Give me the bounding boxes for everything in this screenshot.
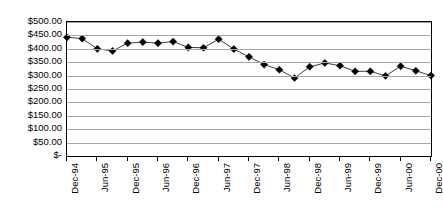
- y-axis-tick-label: $150.00: [0, 110, 62, 120]
- x-axis-tick: [309, 156, 310, 161]
- gridline: [67, 62, 431, 63]
- data-point-marker: [306, 63, 313, 70]
- gridline: [67, 22, 431, 23]
- y-axis-tick-label: $400.00: [0, 43, 62, 53]
- data-point-marker: [215, 36, 222, 43]
- x-axis-tick: [248, 156, 249, 161]
- x-axis-tick-label: Jun-97: [222, 163, 232, 192]
- x-axis-tick-label: Jun-99: [343, 163, 353, 192]
- x-axis-tick-label: Dec-99: [373, 163, 383, 194]
- gridline: [67, 76, 431, 77]
- x-axis-tick: [430, 156, 431, 161]
- gridline: [67, 102, 431, 103]
- x-axis-tick: [278, 156, 279, 161]
- gridline: [67, 89, 431, 90]
- x-axis-tick: [339, 156, 340, 161]
- data-point-marker: [352, 68, 359, 75]
- data-point-marker: [276, 66, 283, 73]
- y-axis-tick-label: $50.00: [0, 137, 62, 147]
- data-point-marker: [367, 68, 374, 75]
- data-point-marker: [124, 40, 131, 47]
- x-axis-tick: [218, 156, 219, 161]
- gridline: [67, 49, 431, 50]
- data-point-marker: [185, 44, 192, 51]
- y-axis-tick-label: $-: [0, 150, 62, 160]
- y-axis-tick-label: $200.00: [0, 96, 62, 106]
- x-axis-tick: [96, 156, 97, 161]
- data-point-marker: [200, 44, 207, 51]
- x-axis-tick-label: Dec-00: [434, 163, 443, 194]
- y-axis-tick-label: $300.00: [0, 70, 62, 80]
- x-axis-tick-label: Jun-96: [161, 163, 171, 192]
- x-axis-tick-label: Dec-94: [70, 163, 80, 194]
- y-axis: $500.00$450.00$400.00$350.00$300.00$250.…: [0, 21, 62, 155]
- y-axis-tick-label: $450.00: [0, 29, 62, 39]
- data-point-marker: [397, 63, 404, 70]
- x-axis-tick-label: Jun-98: [282, 163, 292, 192]
- y-axis-tick-label: $500.00: [0, 16, 62, 26]
- x-axis-tick: [369, 156, 370, 161]
- gridline: [67, 143, 431, 144]
- data-point-marker: [139, 39, 146, 46]
- gridline: [67, 35, 431, 36]
- gridline: [67, 129, 431, 130]
- plot-area: [66, 21, 432, 157]
- data-point-marker: [412, 67, 419, 74]
- x-axis-tick: [400, 156, 401, 161]
- chart-container: $500.00$450.00$400.00$350.00$300.00$250.…: [0, 0, 443, 208]
- x-axis-tick-label: Dec-95: [131, 163, 141, 194]
- x-axis-tick: [187, 156, 188, 161]
- x-axis-tick-label: Dec-98: [313, 163, 323, 194]
- x-axis-tick-label: Jun-00: [404, 163, 414, 192]
- x-axis-tick-label: Dec-97: [252, 163, 262, 194]
- y-axis-tick-label: $250.00: [0, 83, 62, 93]
- x-axis-tick: [66, 156, 67, 161]
- y-axis-tick-label: $100.00: [0, 123, 62, 133]
- x-axis: Dec-94Jun-95Dec-95Jun-96Dec-96Jun-97Dec-…: [66, 156, 432, 208]
- data-point-marker: [170, 38, 177, 45]
- gridline: [67, 116, 431, 117]
- data-point-marker: [154, 40, 161, 47]
- x-axis-tick-label: Dec-96: [191, 163, 201, 194]
- y-axis-tick-label: $350.00: [0, 56, 62, 66]
- x-axis-tick: [157, 156, 158, 161]
- data-point-marker: [245, 53, 252, 60]
- x-axis-tick: [127, 156, 128, 161]
- x-axis-tick-label: Jun-95: [100, 163, 110, 192]
